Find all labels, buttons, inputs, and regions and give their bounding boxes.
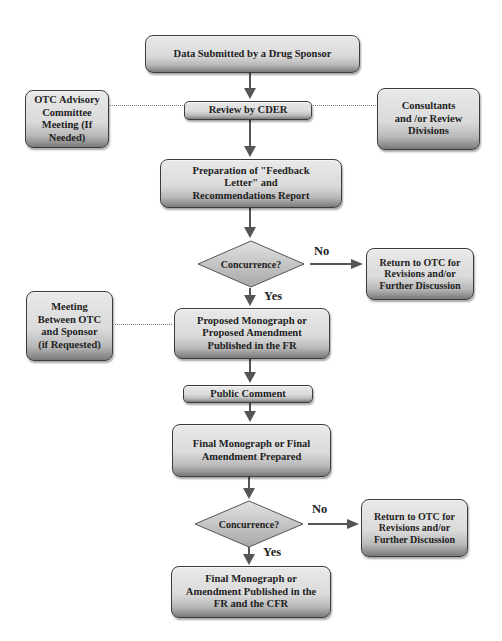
- edge-label-no: No: [314, 244, 329, 259]
- node-meeting-sponsor: Meeting Between OTC and Sponsor (if Requ…: [26, 291, 113, 361]
- node-label: Data Submitted by a Drug Sponsor: [174, 48, 332, 61]
- arrow-line: [249, 120, 251, 147]
- node-final-published: Final Monograph or Amendment Published i…: [171, 566, 331, 618]
- node-label: Review by CDER: [209, 104, 288, 117]
- node-label-line: FR and the CFR: [214, 598, 288, 611]
- arrow-head-down-icon: [243, 488, 255, 499]
- arrow-head-down-icon: [243, 554, 255, 565]
- edge-label-yes: Yes: [264, 289, 282, 304]
- node-return-otc-2: Return to OTC for Revisions and/or Furth…: [361, 499, 468, 557]
- node-label-line: Further Discussion: [379, 280, 460, 292]
- decision-label: Concurrence?: [197, 240, 305, 288]
- decision-concurrence-1: Concurrence?: [197, 240, 305, 288]
- node-label-line: Return to OTC for: [380, 257, 461, 269]
- node-consultants: Consultants and /or Review Divisions: [377, 88, 480, 150]
- node-label-line: Final Monograph or: [205, 573, 297, 586]
- node-label-line: Final Monograph or Final: [193, 438, 310, 451]
- node-review-cder: Review by CDER: [184, 101, 312, 120]
- dotted-connector-consultants: [313, 105, 376, 106]
- node-label-line: (if Requested): [38, 339, 101, 352]
- node-label-line: Revisions and/or: [379, 522, 450, 534]
- arrow-head-right-icon: [351, 259, 363, 269]
- arrow-head-down-icon: [244, 227, 256, 238]
- arrow-head-right-icon: [347, 519, 359, 529]
- node-label-line: OTC Advisory: [34, 94, 100, 107]
- node-label-line: Consultants: [402, 100, 456, 113]
- dotted-connector-otc-advisory: [110, 105, 183, 106]
- node-label-line: Published in the FR: [208, 340, 297, 353]
- node-label: Public Comment: [210, 388, 286, 401]
- arrow-head-down-icon: [244, 411, 256, 422]
- node-label-line: Recommendations Report: [193, 190, 310, 203]
- node-label-line: Meeting: [51, 301, 88, 314]
- node-label-line: Proposed Monograph or: [197, 315, 307, 328]
- node-label-line: Further Discussion: [374, 534, 455, 546]
- node-label-line: Letter" and: [224, 177, 277, 190]
- dotted-connector-meeting-sponsor: [115, 324, 172, 325]
- edge-label-no: No: [312, 502, 327, 517]
- arrow-line: [249, 73, 251, 89]
- node-label-line: Divisions: [408, 125, 449, 138]
- arrow-line: [249, 208, 251, 228]
- node-label-line: Proposed Amendment: [202, 327, 301, 340]
- decision-label: Concurrence?: [194, 500, 304, 548]
- node-label-line: and Sponsor: [41, 326, 97, 339]
- arrow-line: [308, 523, 348, 525]
- node-final-prepared: Final Monograph or Final Amendment Prepa…: [172, 424, 331, 477]
- node-label-line: Revisions and/or: [384, 268, 455, 280]
- node-label-line: Amendment Published in the: [186, 586, 316, 599]
- node-label-line: Needed): [49, 132, 86, 145]
- node-label-line: Committee: [42, 107, 92, 120]
- arrow-line: [249, 359, 251, 373]
- node-return-otc-1: Return to OTC for Revisions and/or Furth…: [366, 248, 474, 300]
- edge-label-yes: Yes: [263, 545, 281, 560]
- node-label-line: Preparation of "Feedback: [192, 165, 309, 178]
- arrow-head-down-icon: [244, 146, 256, 157]
- node-label-line: Return to OTC for: [374, 511, 455, 523]
- decision-concurrence-2: Concurrence?: [194, 500, 304, 548]
- node-label-line: Meeting (If: [42, 119, 92, 132]
- node-feedback-letter: Preparation of "Feedback Letter" and Rec…: [160, 159, 342, 208]
- node-label-line: Amendment Prepared: [202, 451, 302, 464]
- arrow-head-down-icon: [244, 372, 256, 383]
- node-otc-advisory: OTC Advisory Committee Meeting (If Neede…: [25, 90, 109, 148]
- node-label-line: Between OTC: [38, 314, 101, 327]
- node-label-line: and /or Review: [395, 113, 462, 126]
- node-public-comment: Public Comment: [183, 385, 313, 403]
- node-data-submitted: Data Submitted by a Drug Sponsor: [145, 35, 360, 73]
- arrow-line: [310, 263, 352, 265]
- arrow-head-down-icon: [244, 295, 256, 306]
- arrow-head-down-icon: [244, 88, 256, 99]
- node-proposed-monograph: Proposed Monograph or Proposed Amendment…: [174, 308, 330, 359]
